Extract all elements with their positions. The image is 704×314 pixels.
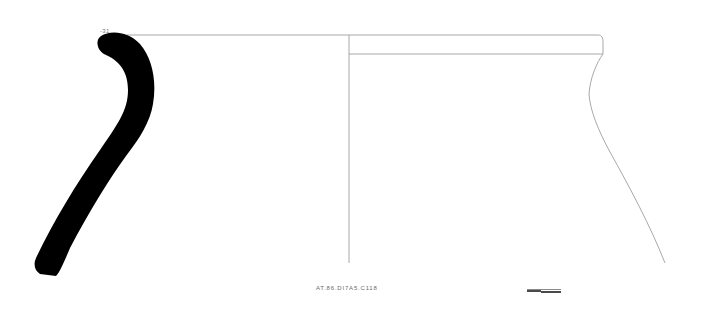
- rim-edge: [598, 35, 603, 54]
- catalog-number-label: AT.86.DI7A5.C118: [316, 285, 378, 291]
- sherd-profile-section: [35, 32, 155, 276]
- scale-bar: [527, 289, 561, 293]
- pottery-drawing: [0, 0, 704, 314]
- exterior-wall-outline: [589, 54, 665, 263]
- rim-diameter-label: -31: [100, 28, 110, 34]
